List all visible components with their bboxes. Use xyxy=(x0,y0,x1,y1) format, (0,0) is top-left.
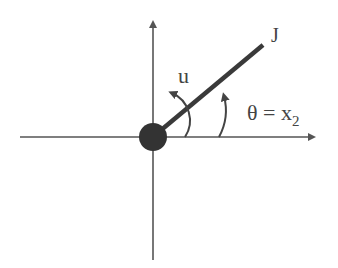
angle-label-subscript: 2 xyxy=(292,113,300,129)
diagram-canvas: J u θ = x2 xyxy=(0,0,338,268)
pivot-joint xyxy=(139,123,167,151)
input-label: u xyxy=(178,63,189,88)
angle-label-main: θ = x xyxy=(247,100,292,125)
rod-label: J xyxy=(271,24,279,46)
diagram-svg: J u θ = x2 xyxy=(0,0,338,268)
angle-arc-arrow xyxy=(219,96,226,137)
angle-label: θ = x2 xyxy=(247,100,299,129)
